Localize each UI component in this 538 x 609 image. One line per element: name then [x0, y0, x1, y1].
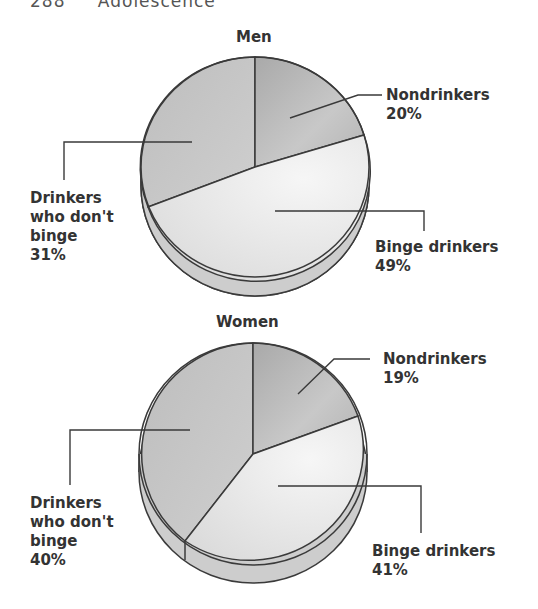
label-name: Nondrinkers — [383, 350, 487, 369]
men-label-nondrinkers: Nondrinkers 20% — [386, 86, 490, 124]
men-chart-title: Men — [236, 28, 272, 46]
label-line: who don't — [30, 513, 114, 532]
women-label-binge: Binge drinkers 41% — [372, 542, 495, 580]
label-line: binge — [30, 532, 114, 551]
label-value: 31% — [30, 246, 114, 265]
men-label-binge: Binge drinkers 49% — [375, 238, 498, 276]
label-value: 49% — [375, 257, 498, 276]
women-label-nonbinge: Drinkers who don't binge 40% — [30, 494, 114, 570]
women-pie — [70, 343, 421, 583]
label-value: 41% — [372, 561, 495, 580]
label-value: 19% — [383, 369, 487, 388]
label-value: 40% — [30, 551, 114, 570]
label-name: Binge drinkers — [372, 542, 495, 561]
label-line: binge — [30, 227, 114, 246]
men-pie — [64, 57, 424, 296]
men-label-nonbinge: Drinkers who don't binge 31% — [30, 189, 114, 265]
label-name: Nondrinkers — [386, 86, 490, 105]
label-value: 20% — [386, 105, 490, 124]
label-line: Drinkers — [30, 494, 114, 513]
women-label-nondrinkers: Nondrinkers 19% — [383, 350, 487, 388]
women-chart-title: Women — [216, 313, 279, 331]
label-line: who don't — [30, 208, 114, 227]
label-line: Drinkers — [30, 189, 114, 208]
label-name: Binge drinkers — [375, 238, 498, 257]
